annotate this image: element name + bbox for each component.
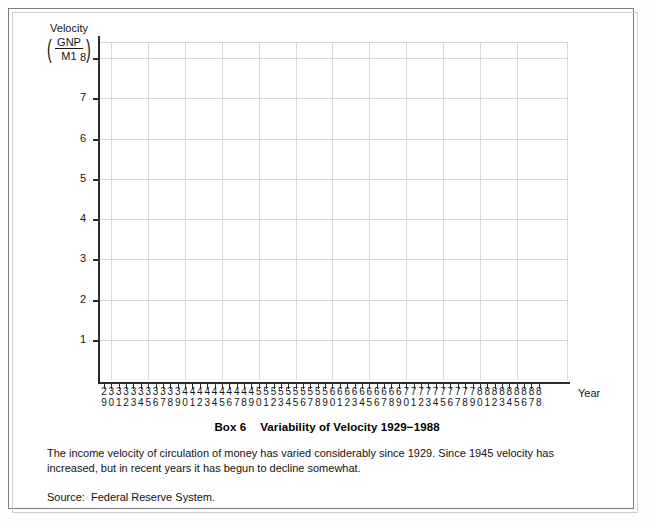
y-axis xyxy=(98,36,100,384)
gridline-x-1930 xyxy=(111,42,112,380)
gridline-x-1955 xyxy=(296,42,297,380)
gridline-x-1985 xyxy=(517,42,518,380)
caption-source: Source:Federal Reserve System. xyxy=(47,490,607,504)
y-tick-7 xyxy=(93,98,100,100)
gridline-x-1970 xyxy=(406,42,407,380)
y-tick-label-5: 5 xyxy=(66,173,86,184)
y-tick-label-2: 2 xyxy=(66,294,86,305)
y-tick-2 xyxy=(93,300,100,302)
gridline-x-1940 xyxy=(185,42,186,380)
right-paren: ) xyxy=(86,36,91,62)
source-label: Source: xyxy=(47,491,85,503)
gridline-y-3 xyxy=(100,259,568,260)
source-value: Federal Reserve System. xyxy=(91,491,215,503)
x-axis-tick-labels: 2930313233343536373839404142434445464748… xyxy=(100,386,570,412)
x-axis-title: Year xyxy=(578,387,600,399)
y-tick-4 xyxy=(93,219,100,221)
x-label-decade-digit: 8 xyxy=(534,386,544,397)
y-tick-8 xyxy=(93,58,100,60)
y-tick-label-6: 6 xyxy=(66,133,86,144)
figure-page: Velocity ( GNP M1 ) 87654321 xyxy=(0,0,651,526)
y-tick-label-8: 8 xyxy=(66,52,86,63)
velocity-chart: Velocity ( GNP M1 ) 87654321 xyxy=(0,0,651,410)
gridline-y-8 xyxy=(100,58,568,59)
left-paren: ( xyxy=(47,36,52,62)
fraction-numerator: GNP xyxy=(55,36,83,49)
y-tick-6 xyxy=(93,139,100,141)
plot-top-border xyxy=(100,42,568,43)
y-tick-label-1: 1 xyxy=(66,334,86,345)
gridline-y-7 xyxy=(100,98,568,99)
gridline-y-5 xyxy=(100,179,568,180)
y-tick-label-4: 4 xyxy=(66,213,86,224)
gridline-y-6 xyxy=(100,139,568,140)
gridline-x-1935 xyxy=(148,42,149,380)
gridline-x-1950 xyxy=(259,42,260,380)
box-number: Box 6 xyxy=(214,421,246,433)
caption-title-text: Variability of Velocity 1929−1988 xyxy=(260,421,439,433)
x-axis xyxy=(98,382,570,384)
gridline-x-1975 xyxy=(443,42,444,380)
y-tick-label-7: 7 xyxy=(66,92,86,103)
gridline-y-1 xyxy=(100,340,568,341)
y-tick-label-3: 3 xyxy=(66,253,86,264)
plot-right-border xyxy=(567,42,568,380)
x-label-year-digit: 8 xyxy=(534,397,544,408)
gridline-y-2 xyxy=(100,300,568,301)
gridline-y-4 xyxy=(100,219,568,220)
caption-title: Box 6Variability of Velocity 1929−1988 xyxy=(47,421,607,433)
plot-area xyxy=(100,42,568,380)
gridline-x-1980 xyxy=(480,42,481,380)
y-tick-3 xyxy=(93,259,100,261)
caption-block: Box 6Variability of Velocity 1929−1988 T… xyxy=(47,421,607,504)
y-tick-5 xyxy=(93,179,100,181)
gridline-x-1960 xyxy=(332,42,333,380)
gridline-x-1965 xyxy=(369,42,370,380)
gridline-x-1945 xyxy=(222,42,223,380)
y-tick-1 xyxy=(93,340,100,342)
plot-background xyxy=(100,42,568,380)
caption-body: The income velocity of circulation of mo… xyxy=(47,446,607,476)
x-tick-label-1988: 88 xyxy=(534,386,544,408)
